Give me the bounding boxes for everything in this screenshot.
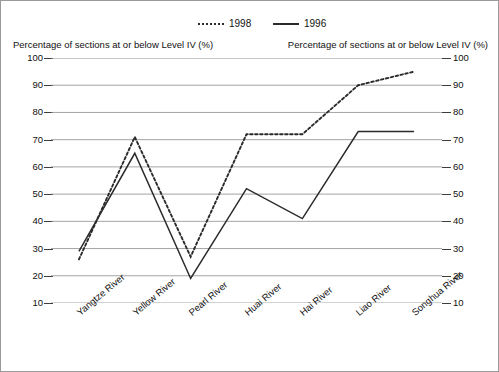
y-axis-tick-label-right-10: 10 <box>453 298 477 308</box>
y-axis-tick-label-right-100: 100 <box>453 53 477 63</box>
legend-label-1996: 1996 <box>304 19 326 29</box>
y-axis-tick-label-left-100: 100 <box>19 53 43 63</box>
y-axis-tick-label-right-50: 50 <box>453 189 477 199</box>
y-axis-tick-label-left-60: 60 <box>19 162 43 172</box>
y-axis-tick-label-left-10: 10 <box>19 298 43 308</box>
y-axis-tick-mark-right-10 <box>442 303 451 304</box>
y-axis-tick-mark-right-80 <box>442 112 451 113</box>
y-axis-tick-label-right-80: 80 <box>453 107 477 117</box>
y-axis-tick-label-left-50: 50 <box>19 189 43 199</box>
y-axis-tick-label-right-30: 30 <box>453 244 477 254</box>
legend-item-1996: 1996 <box>273 17 326 31</box>
top-faint-text-strip <box>1 1 499 12</box>
y-axis-tick-mark-right-70 <box>442 140 451 141</box>
y-axis-tick-mark-right-50 <box>442 194 451 195</box>
y-axis-tick-label-right-90: 90 <box>453 80 477 90</box>
legend-label-1998: 1998 <box>229 19 251 29</box>
plot-area <box>51 58 442 303</box>
y-axis-tick-mark-right-30 <box>442 249 451 250</box>
left-axis-caption: Percentage of sections at or below Level… <box>13 39 213 50</box>
data-series-layer <box>79 72 414 279</box>
y-axis-tick-label-left-20: 20 <box>19 271 43 281</box>
plot-svg <box>51 58 442 303</box>
series-line-1998 <box>79 72 414 260</box>
y-axis-tick-mark-left-10 <box>44 303 53 304</box>
y-axis-tick-mark-right-40 <box>442 221 451 222</box>
right-axis-caption: Percentage of sections at or below Level… <box>288 39 488 50</box>
y-axis-tick-label-left-40: 40 <box>19 216 43 226</box>
gridlines <box>51 58 442 303</box>
y-axis-tick-label-right-70: 70 <box>453 135 477 145</box>
y-axis-tick-label-right-60: 60 <box>453 162 477 172</box>
y-axis-tick-label-left-70: 70 <box>19 135 43 145</box>
chart-legend: 1998 1996 <box>1 17 499 31</box>
y-axis-tick-label-left-80: 80 <box>19 107 43 117</box>
y-axis-tick-mark-right-90 <box>442 85 451 86</box>
y-axis-tick-label-left-30: 30 <box>19 244 43 254</box>
y-axis-tick-label-right-40: 40 <box>453 216 477 226</box>
y-axis-tick-mark-right-60 <box>442 167 451 168</box>
legend-item-1998: 1998 <box>198 17 251 31</box>
legend-key-dashed-icon <box>198 23 224 25</box>
y-axis-tick-label-left-90: 90 <box>19 80 43 90</box>
legend-key-solid-icon <box>273 23 299 25</box>
y-axis-tick-mark-right-100 <box>442 58 451 59</box>
series-line-1996 <box>79 132 414 279</box>
chart-frame: 1998 1996 Percentage of sections at or b… <box>0 0 499 372</box>
